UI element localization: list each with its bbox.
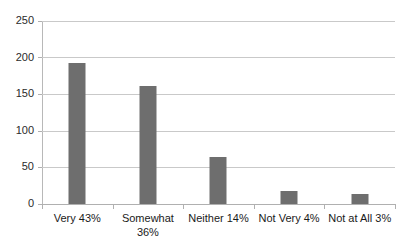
- x-axis-tick-0: [42, 204, 43, 209]
- bars-layer: [42, 21, 395, 204]
- y-axis-tick-label-0: 0: [0, 198, 34, 209]
- x-axis-label-neither: Neither 14%: [183, 211, 254, 225]
- gridline-0-baseline: [42, 204, 395, 205]
- y-axis-tick-label-100: 100: [0, 125, 34, 136]
- y-axis-tick-label-150: 150: [0, 88, 34, 99]
- x-axis-tick-3: [254, 204, 255, 209]
- bar-slot-not-very: [254, 21, 325, 204]
- bar-chart: 250 200 150 100 50 0: [0, 0, 409, 249]
- bar-slot-not-at-all: [324, 21, 395, 204]
- x-axis-tick-2: [183, 204, 184, 209]
- x-axis-tick-labels: Very 43% Somewhat 36% Neither 14% Not Ve…: [42, 211, 395, 249]
- x-axis-label-not-very: Not Very 4%: [254, 211, 325, 225]
- x-axis-tick-5: [395, 204, 396, 209]
- x-axis-tick-4: [324, 204, 325, 209]
- bar-slot-somewhat: [113, 21, 184, 204]
- y-axis-tick-label-250: 250: [0, 15, 34, 26]
- y-axis-tick-label-200: 200: [0, 52, 34, 63]
- x-axis-label-very: Very 43%: [42, 211, 113, 225]
- x-axis-tick-1: [113, 204, 114, 209]
- bar-not-very[interactable]: [281, 191, 298, 204]
- bar-not-at-all[interactable]: [351, 194, 368, 204]
- x-axis-label-somewhat: Somewhat 36%: [113, 211, 184, 239]
- bar-neither[interactable]: [210, 157, 227, 204]
- bar-very[interactable]: [69, 63, 86, 204]
- y-axis-tick-labels: 250 200 150 100 50 0: [0, 0, 36, 249]
- bar-somewhat[interactable]: [139, 86, 156, 204]
- y-axis-tick-label-50: 50: [0, 161, 34, 172]
- x-axis-label-not-at-all: Not at All 3%: [324, 211, 395, 225]
- bar-slot-very: [42, 21, 113, 204]
- bar-slot-neither: [183, 21, 254, 204]
